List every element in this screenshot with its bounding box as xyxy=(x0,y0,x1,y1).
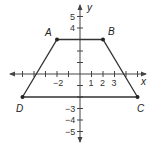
x-tick-label: 2 xyxy=(100,78,105,88)
y-tick-label: 4 xyxy=(70,23,75,33)
y-axis-label: y xyxy=(86,2,93,13)
x-axis-label: x xyxy=(140,76,147,87)
vertex-label-d: D xyxy=(16,103,23,114)
vertex-label-a: A xyxy=(44,27,52,38)
x-tick-label: −2 xyxy=(53,78,63,88)
y-tick-label: −5 xyxy=(65,127,75,137)
x-axis xyxy=(9,71,147,77)
x-tick-label: 3 xyxy=(112,78,117,88)
y-tick-label: −4 xyxy=(65,115,75,125)
y-tick-label: −3 xyxy=(65,104,75,114)
coordinate-plane: x y −2 1 2 3 5 4 −3 −4 −5 A B C D xyxy=(0,0,148,146)
vertex-label-b: B xyxy=(108,26,115,37)
x-tick-label: 1 xyxy=(89,78,94,88)
vertex-label-c: C xyxy=(137,103,145,114)
y-tick-label: 5 xyxy=(70,12,75,22)
